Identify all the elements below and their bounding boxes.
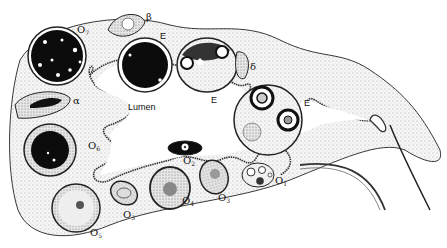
- label-e-top: E: [160, 32, 166, 41]
- label-o6-base: O: [88, 140, 96, 151]
- diagram-svg: [0, 0, 447, 248]
- label-o1: O1: [275, 176, 287, 187]
- label-o5-sub: 5: [98, 232, 102, 239]
- label-o3b-base: O: [218, 192, 226, 203]
- oocyte-o6: [24, 124, 76, 176]
- label-o7: O7: [77, 25, 89, 36]
- label-delta: δ: [250, 62, 256, 72]
- label-e-right: E: [304, 99, 310, 108]
- atretic-follicle-right: [234, 85, 302, 155]
- label-o3a-base: O: [123, 209, 131, 220]
- oocyte-o2: [168, 141, 202, 155]
- label-o7-base: O: [77, 24, 85, 35]
- label-o3-middle: O3: [218, 193, 230, 204]
- ovary-section-diagram: Lumen O7 O6 O5 O3 O4 O3 O2 O1 α β δ E E …: [0, 0, 447, 248]
- label-o1-base: O: [275, 175, 283, 186]
- label-o4-sub: 4: [190, 200, 194, 207]
- oocyte-large-black: [118, 38, 172, 92]
- oocyte-o1-cluster: [242, 163, 274, 187]
- body-delta: [236, 52, 249, 79]
- oocyte-o5: [52, 184, 100, 232]
- label-o4-base: O: [182, 195, 190, 206]
- label-o3-left: O3: [123, 210, 135, 221]
- label-alpha: α: [73, 96, 80, 106]
- label-o4: O4: [182, 196, 194, 207]
- label-o5-base: O: [90, 227, 98, 238]
- label-o6: O6: [88, 141, 100, 152]
- label-lumen: Lumen: [128, 103, 156, 112]
- label-o1-sub: 1: [283, 180, 287, 187]
- label-o2-sub: 2: [191, 160, 195, 167]
- atretic-follicle-top: [177, 38, 237, 92]
- duct-left-wall-inner: [300, 168, 380, 210]
- label-o6-sub: 6: [96, 145, 100, 152]
- label-o2: O2: [183, 156, 195, 167]
- label-beta: β: [146, 12, 152, 22]
- label-o3b-sub: 3: [226, 197, 230, 204]
- label-e-middle: E: [211, 96, 217, 105]
- label-o7-sub: 7: [85, 29, 89, 36]
- label-o3a-sub: 3: [131, 214, 135, 221]
- label-o2-base: O: [183, 155, 191, 166]
- label-o5: O5: [90, 228, 102, 239]
